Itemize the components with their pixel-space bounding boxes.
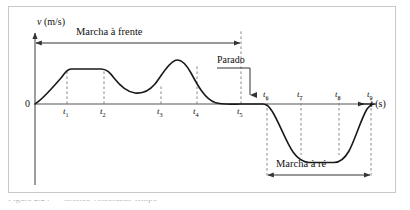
tick-label-t7: t7 — [297, 90, 303, 101]
tick-label-t6: t6 — [263, 90, 269, 101]
y-axis-label-unit: (m/s) — [41, 16, 65, 27]
tick-label-t4: t4 — [193, 107, 199, 118]
parado-callout-arrow — [217, 68, 250, 95]
tick-label-t1: t1 — [63, 107, 69, 118]
reverse-span-label: Marcha à ré — [276, 159, 326, 170]
figure-frame: v (m/s) t (s) 0 Marcha à frente Marcha à… — [8, 6, 396, 193]
tick-label-t9: t9 — [367, 90, 373, 101]
parado-callout-label: Parado — [217, 55, 245, 65]
figure-caption-clipped: Figura 2.24 — Gráfico velocidade-tempo — [8, 200, 338, 210]
tick-label-t8: t8 — [335, 90, 341, 101]
forward-span-label: Marcha à frente — [76, 27, 142, 38]
velocity-curve — [35, 60, 375, 163]
figure-caption-text: Figura 2.24 — Gráfico velocidade-tempo — [8, 200, 338, 203]
tick-label-t3: t3 — [157, 107, 163, 118]
y-axis-label: v (m/s) — [37, 17, 65, 27]
tick-label-t2: t2 — [100, 107, 106, 118]
tick-label-t5: t5 — [237, 107, 243, 118]
x-axis-label-unit: (s) — [373, 98, 386, 109]
origin-label: 0 — [25, 99, 30, 109]
